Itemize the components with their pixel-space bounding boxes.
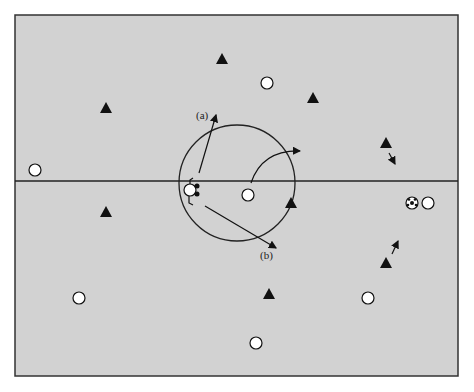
ball-icon <box>406 197 418 209</box>
label-b: (b) <box>260 249 273 262</box>
soccer-diagram: (a) (b) <box>0 0 474 392</box>
circle-player-icon <box>73 292 85 304</box>
circle-player-icon <box>261 77 273 89</box>
circle-player-icon <box>362 292 374 304</box>
field <box>15 15 458 376</box>
circle-player-icon <box>242 189 254 201</box>
circle-player-icon <box>29 164 41 176</box>
circle-player-icon <box>250 337 262 349</box>
circle-player-icon <box>422 197 434 209</box>
label-a: (a) <box>196 109 209 122</box>
